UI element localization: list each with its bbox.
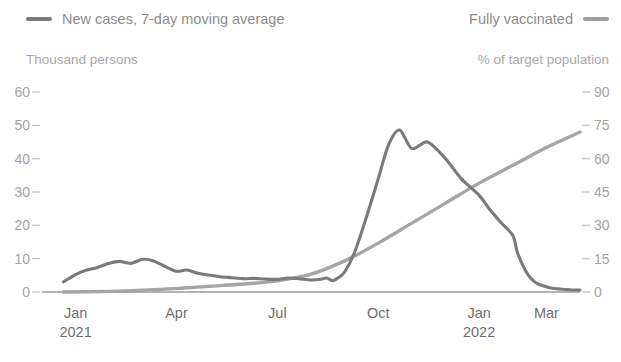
chart-svg — [0, 78, 621, 303]
right-axis-tick-label: 30 — [594, 218, 621, 232]
legend-item-fully-vaccinated: Fully vaccinated — [469, 10, 609, 28]
x-axis-tick-label: Jan2021 — [36, 304, 116, 342]
series-line-fully-vaccinated — [63, 132, 580, 292]
x-axis-year-label: 2022 — [439, 323, 519, 342]
right-axis-tick-label: 45 — [594, 185, 621, 199]
right-axis-tick-label: 0 — [594, 285, 621, 299]
x-axis-month-label: Jan — [64, 305, 87, 321]
x-axis-tick-label: Apr — [137, 304, 217, 323]
x-axis-tick-labels: Jan2021AprJulOctJan2022Mar — [0, 304, 621, 362]
x-axis-month-label: Jul — [268, 305, 287, 321]
left-axis-tick-label: 60 — [0, 85, 30, 99]
right-axis-tick-label: 60 — [594, 152, 621, 166]
plot-area: 0102030405060 0153045607590 — [0, 78, 621, 303]
x-axis-year-label: 2021 — [36, 323, 116, 342]
legend-swatch-fully-vaccinated — [583, 17, 609, 21]
series-line-new-cases — [63, 130, 580, 290]
x-axis-tick-label: Jul — [237, 304, 317, 323]
legend-item-new-cases: New cases, 7-day moving average — [26, 10, 284, 28]
left-axis-unit-label: Thousand persons — [26, 52, 138, 67]
left-axis-tick-label: 0 — [0, 285, 30, 299]
right-axis-tick-label: 15 — [594, 252, 621, 266]
left-axis-tick-label: 20 — [0, 218, 30, 232]
x-axis-tick-label: Mar — [506, 304, 586, 323]
left-axis-tick-label: 30 — [0, 185, 30, 199]
legend-label-fully-vaccinated: Fully vaccinated — [469, 10, 573, 28]
left-axis-tick-label: 50 — [0, 118, 30, 132]
x-axis-month-label: Jan — [467, 305, 490, 321]
right-axis-unit-label: % of target population — [478, 52, 609, 67]
x-axis-tick-label: Oct — [338, 304, 418, 323]
left-axis-tick-label: 10 — [0, 252, 30, 266]
chart-legend: New cases, 7-day moving average Fully va… — [0, 10, 621, 34]
legend-swatch-new-cases — [26, 17, 52, 21]
right-axis-tick-label: 90 — [594, 85, 621, 99]
right-axis-tick-label: 75 — [594, 118, 621, 132]
left-axis-tick-label: 40 — [0, 152, 30, 166]
x-axis-month-label: Oct — [367, 305, 390, 321]
x-axis-month-label: Mar — [534, 305, 559, 321]
x-axis-month-label: Apr — [165, 305, 188, 321]
chart-container: New cases, 7-day moving average Fully va… — [0, 0, 621, 362]
legend-label-new-cases: New cases, 7-day moving average — [62, 10, 284, 28]
